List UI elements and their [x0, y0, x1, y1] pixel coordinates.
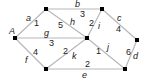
edge-j	[87, 38, 125, 69]
edge-f	[15, 38, 46, 69]
node-bottom-right	[123, 67, 127, 71]
edge-weight-g: 3	[49, 38, 54, 48]
edge-weight-h: 5	[58, 20, 63, 30]
node-top-left	[44, 7, 48, 11]
node-top-right	[100, 7, 104, 11]
edge-weight-k: 2	[63, 46, 68, 56]
edge-label-h: h	[70, 17, 75, 27]
node-right	[135, 38, 139, 42]
edge-weight-c: 4	[116, 24, 121, 34]
edge-label-i: i	[98, 21, 101, 31]
edge-weight-j: 1	[96, 46, 101, 56]
edge-label-j: j	[106, 42, 110, 52]
edge-label-k: k	[72, 51, 77, 61]
edge-weight-d: 6	[126, 47, 131, 57]
edge-weight-f: 4	[33, 47, 38, 57]
edge-label-g: g	[44, 28, 49, 38]
edge-label-c: c	[117, 13, 122, 23]
edge-label-d: d	[133, 51, 139, 61]
edge-weight-e: 2	[85, 59, 90, 69]
edge-weight-a: 1	[34, 18, 39, 28]
edge-weight-i: 2	[89, 18, 94, 28]
node-bottom-left	[44, 67, 48, 71]
edge-label-b: b	[75, 0, 80, 9]
edge-label-a: a	[26, 13, 31, 23]
node-label-A: A	[8, 26, 15, 36]
edge-label-f: f	[25, 55, 29, 65]
node-A	[13, 36, 17, 40]
edge-label-e: e	[82, 70, 87, 80]
node-center	[85, 36, 89, 40]
edge-weight-b: 3	[80, 9, 85, 19]
weighted-graph: A a g f b h i c k j d e 1 3 4 3 5 2 4 2 …	[0, 0, 146, 81]
